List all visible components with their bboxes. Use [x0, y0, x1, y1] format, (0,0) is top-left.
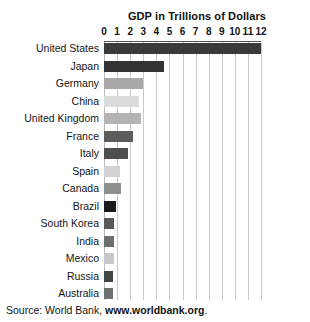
category-label: France — [66, 130, 99, 142]
bar-row: Russia — [0, 269, 310, 287]
x-axis-tick-labels: 0123456789101112 — [104, 26, 261, 40]
category-label: Australia — [58, 287, 99, 299]
category-label: South Korea — [41, 217, 99, 229]
category-label: Italy — [80, 147, 99, 159]
x-tick-label: 9 — [219, 26, 225, 37]
bar — [104, 218, 114, 229]
source-url[interactable]: www.worldbank.org — [105, 304, 204, 316]
bar — [104, 183, 121, 194]
bar-rows: United StatesJapanGermanyChinaUnited Kin… — [0, 41, 310, 300]
x-tick-label: 3 — [140, 26, 146, 37]
x-tick-label: 0 — [101, 26, 107, 37]
category-label: Brazil — [73, 200, 99, 212]
bar-row: United Kingdom — [0, 111, 310, 129]
bar-row: Mexico — [0, 251, 310, 269]
chart-title: GDP in Trillions of Dollars — [104, 10, 290, 22]
x-tick-label: 1 — [114, 26, 120, 37]
category-label: Mexico — [66, 252, 99, 264]
x-tick-label: 8 — [206, 26, 212, 37]
source-prefix: Source: World Bank, — [6, 304, 105, 316]
bar-row: India — [0, 234, 310, 252]
category-label: China — [72, 95, 99, 107]
x-tick-label: 10 — [229, 26, 240, 37]
category-label: United Kingdom — [24, 112, 99, 124]
x-tick-label: 2 — [127, 26, 133, 37]
bar — [104, 131, 133, 142]
bar-row: Japan — [0, 59, 310, 77]
category-label: Canada — [62, 182, 99, 194]
bar — [104, 201, 116, 212]
category-label: Japan — [70, 60, 99, 72]
x-tick-label: 5 — [167, 26, 173, 37]
bar-row: United States — [0, 41, 310, 59]
bar-row: South Korea — [0, 216, 310, 234]
bar-row: France — [0, 129, 310, 147]
x-tick-label: 4 — [154, 26, 160, 37]
bar — [104, 43, 261, 54]
bar — [104, 288, 113, 299]
bar-row: Italy — [0, 146, 310, 164]
bar-row: Canada — [0, 181, 310, 199]
bar-row: China — [0, 94, 310, 112]
bar — [104, 148, 128, 159]
bar — [104, 236, 114, 247]
bar-row: Brazil — [0, 199, 310, 217]
bar-row: Spain — [0, 164, 310, 182]
source-note: Source: World Bank, www.worldbank.org. — [6, 304, 207, 316]
x-tick-label: 7 — [193, 26, 199, 37]
bar — [104, 96, 139, 107]
category-label: Spain — [72, 165, 99, 177]
source-suffix: . — [204, 304, 207, 316]
category-label: Russia — [67, 270, 99, 282]
bar-row: Germany — [0, 76, 310, 94]
category-label: Germany — [56, 77, 99, 89]
x-tick-label: 12 — [255, 26, 266, 37]
bar-row: Australia — [0, 286, 310, 304]
bar — [104, 271, 113, 282]
x-tick-label: 11 — [243, 26, 254, 37]
chart-figure: GDP in Trillions of Dollars 012345678910… — [0, 0, 310, 322]
category-label: United States — [36, 42, 99, 54]
bar — [104, 253, 114, 264]
bar — [104, 61, 164, 72]
x-tick-label: 6 — [180, 26, 186, 37]
bar — [104, 78, 143, 89]
bar — [104, 166, 120, 177]
bar — [104, 113, 141, 124]
category-label: India — [76, 235, 99, 247]
